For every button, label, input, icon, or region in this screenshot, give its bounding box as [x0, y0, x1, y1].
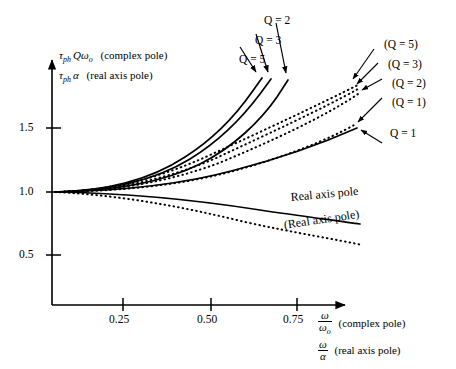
- leader-arrow-solid-q1: [361, 130, 382, 143]
- y-axis-label-complex-pole: τph Qωo (complex pole): [59, 50, 167, 65]
- annotation-solid-q3: Q = 3: [255, 34, 281, 46]
- x-axis-label-complex-pole: ω ωo (complex pole): [318, 311, 405, 337]
- y-axis-label-real-pole: τph α (real axis pole): [59, 70, 153, 85]
- annotation-dotted-q5: (Q = 5): [384, 38, 418, 50]
- leader-arrow-dotted-q2: [362, 79, 382, 90]
- annotation-dotted-q1: (Q = 1): [392, 96, 426, 108]
- leader-arrow-dotted-q5: [353, 49, 374, 79]
- leader-arrow-q2: [276, 23, 286, 73]
- x-axis-fraction-complex: ω ωo: [318, 310, 332, 336]
- x-tick-label-0.25: 0.25: [109, 313, 129, 325]
- axis-lines: [52, 60, 345, 305]
- leader-arrow-dotted-q3: [357, 63, 378, 84]
- x-axis-frac1-denominator: ωo: [318, 321, 332, 336]
- annotation-solid-q2: Q = 2: [264, 14, 290, 26]
- curve-solid-q3: [55, 79, 271, 192]
- y-axis-label-real-pole-text: (real axis pole): [87, 69, 153, 81]
- phase-delay-chart-figure: τph Qωo (complex pole) τph α (real axis …: [0, 0, 456, 369]
- leader-arrow-dotted-q1: [358, 98, 382, 122]
- annotation-dotted-q3: (Q = 3): [388, 58, 422, 70]
- x-tick-label-0.50: 0.50: [197, 313, 217, 325]
- y-tick-label-1.0: 1.0: [19, 185, 33, 197]
- x-axis-frac1-numerator: ω: [318, 310, 332, 321]
- leader-arrows-right: [353, 49, 382, 143]
- annotation-solid-q1: Q = 1: [390, 127, 416, 139]
- x-axis-label-real-pole-text: (real axis pole): [335, 344, 401, 356]
- y-tick-label-1.5: 1.5: [19, 121, 33, 133]
- curve-dotted-q1: [55, 124, 356, 192]
- y-tick-label-0.5: 0.5: [19, 248, 33, 260]
- curve-dotted-q5: [55, 85, 358, 192]
- leader-arrows-top: [240, 23, 286, 73]
- x-tick-label-0.75: 0.75: [283, 313, 303, 325]
- x-axis-frac2-denominator: α: [318, 350, 328, 362]
- annotation-dotted-q2: (Q = 2): [392, 77, 426, 89]
- x-axis-fraction-real: ω α: [318, 339, 328, 362]
- y-axis-label-complex-pole-text: (complex pole): [100, 49, 167, 61]
- x-axis-frac2-numerator: ω: [318, 339, 328, 350]
- dotted-rising-curves: [55, 85, 358, 192]
- x-axis-label-complex-pole-text: (complex pole): [338, 317, 405, 329]
- annotation-solid-q5: Q = 5: [239, 53, 265, 65]
- x-axis-label-real-pole: ω α (real axis pole): [318, 340, 401, 363]
